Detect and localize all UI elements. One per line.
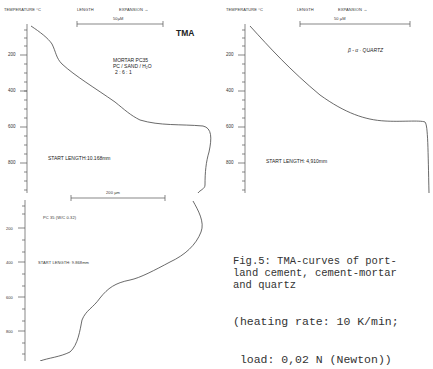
cement-tick-800: 800 <box>6 329 13 334</box>
cement-tick-600: 600 <box>6 295 13 300</box>
quartz-tick-600: 600 <box>226 124 234 129</box>
caption-line5: load: 0,02 N (Newton)) <box>233 354 399 367</box>
mortar-curve <box>31 26 211 193</box>
cement-curve <box>40 201 202 361</box>
quartz-tick-200: 200 <box>226 52 234 57</box>
quartz-scale-bar-label: 50 µM <box>334 16 346 21</box>
mortar-y-ticks <box>20 30 27 190</box>
quartz-length-label: LENGTH <box>297 7 314 12</box>
figure-caption-conditions: (heating rate: 10 K/min; load: 0,02 N (N… <box>233 291 399 369</box>
quartz-y-ticks <box>238 30 245 190</box>
caption-line3: and quartz <box>233 279 397 291</box>
caption-line1: Fig.5: TMA-curves of port- <box>233 255 397 267</box>
mortar-y-axis-label: TEMPERATURE °C <box>4 7 41 12</box>
caption-line4: (heating rate: 10 K/min; <box>233 316 399 329</box>
cement-tick-400: 400 <box>6 260 13 265</box>
mortar-tick-400: 400 <box>8 88 16 93</box>
mortar-length-label: LENGTH <box>77 7 94 12</box>
tma-title: TMA <box>176 28 194 38</box>
mortar-expansion-label: EXPANSION → <box>119 7 148 12</box>
cement-y-ticks <box>18 206 25 354</box>
quartz-label: β - α · QUARTZ <box>348 47 383 53</box>
mortar-tick-600: 600 <box>8 124 16 129</box>
quartz-curve <box>250 26 429 193</box>
quartz-tick-800: 800 <box>226 160 234 165</box>
caption-line2: land cement, cement-mortar <box>233 267 397 279</box>
mortar-start-length: START LENGTH:10.168mm <box>48 155 111 161</box>
quartz-y-axis-label: TEMPERATURE °C <box>226 7 263 12</box>
cement-tick-200: 200 <box>6 226 13 231</box>
cement-label: PC 35 (W/C 0.32) <box>43 215 76 220</box>
mortar-label-line3: 2 : 6 : 1 <box>115 69 132 75</box>
quartz-start-length: START LENGTH: 4,910mm <box>266 158 327 164</box>
mortar-scale-bar-label: 50µM <box>113 16 124 21</box>
mortar-tick-200: 200 <box>8 52 16 57</box>
cement-start-length: START LENGTH: 9.868mm <box>38 260 89 265</box>
cement-scale-bar-label: 200 µm <box>106 190 120 195</box>
quartz-expansion-label: EXPANSION → <box>338 7 367 12</box>
mortar-tick-800: 800 <box>8 160 16 165</box>
quartz-tick-400: 400 <box>226 88 234 93</box>
figure-caption: Fig.5: TMA-curves of port- land cement, … <box>233 255 397 291</box>
